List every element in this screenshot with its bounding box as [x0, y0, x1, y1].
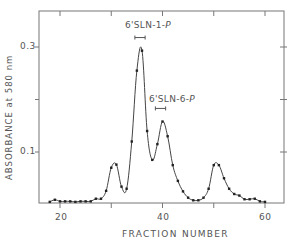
- data-point: [177, 180, 179, 182]
- data-point: [202, 196, 204, 198]
- data-point: [95, 198, 97, 200]
- plot-frame: [39, 11, 284, 203]
- data-point: [90, 200, 92, 202]
- data-series: [49, 47, 267, 203]
- data-point: [264, 201, 266, 203]
- data-point: [110, 167, 112, 169]
- data-point: [74, 201, 76, 203]
- data-point: [166, 135, 168, 137]
- data-point: [120, 185, 122, 187]
- annotation-italic: P: [165, 20, 171, 30]
- data-point: [243, 198, 245, 200]
- data-point: [238, 194, 240, 196]
- data-point: [54, 199, 56, 201]
- y-axis-label: ABSORBANCE at 580 nm: [4, 55, 14, 180]
- x-tick-label-40: 40: [157, 212, 169, 222]
- data-point: [141, 49, 143, 51]
- data-point: [233, 193, 235, 195]
- data-point: [197, 199, 199, 201]
- data-point: [100, 198, 102, 200]
- data-point: [125, 188, 127, 190]
- data-point: [192, 199, 194, 201]
- data-point: [79, 200, 81, 202]
- data-point: [187, 196, 189, 198]
- data-point: [115, 163, 117, 165]
- data-point: [131, 140, 133, 142]
- data-point: [254, 198, 256, 200]
- data-point: [218, 164, 220, 166]
- annotation-6sln-6-p: 6'SLN-6-P: [149, 94, 195, 104]
- data-point: [59, 200, 61, 202]
- data-point: [84, 200, 86, 202]
- data-point: [248, 198, 250, 200]
- data-point: [228, 188, 230, 190]
- data-point: [156, 143, 158, 145]
- data-point: [151, 159, 153, 161]
- plot-border: [39, 11, 284, 203]
- y-tick-label-0.1: 0.1: [20, 146, 36, 156]
- annotation-text: 6'SLN-6-: [149, 94, 189, 104]
- data-point: [49, 201, 51, 203]
- data-point: [64, 200, 66, 202]
- data-point: [69, 200, 71, 202]
- annotation-italic: P: [189, 94, 195, 104]
- data-point: [146, 130, 148, 132]
- y-tick-label-0.3: 0.3: [20, 41, 36, 51]
- data-point: [182, 190, 184, 192]
- data-point: [213, 164, 215, 166]
- data-point: [259, 200, 261, 202]
- x-tick-label-60: 60: [259, 212, 271, 222]
- axis-ticks: [35, 11, 287, 208]
- data-point: [172, 164, 174, 166]
- series-line: [50, 47, 265, 202]
- x-axis-label: FRACTION NUMBER: [122, 229, 229, 239]
- data-point: [105, 190, 107, 192]
- data-point: [136, 69, 138, 71]
- annotation-6sln-1-p: 6'SLN-1-P: [125, 20, 171, 30]
- data-point: [223, 177, 225, 179]
- annotation-text: 6'SLN-1-: [125, 20, 165, 30]
- x-tick-label-20: 20: [55, 212, 67, 222]
- data-point: [207, 188, 209, 190]
- chart-plot: [0, 0, 296, 244]
- data-point: [161, 120, 163, 122]
